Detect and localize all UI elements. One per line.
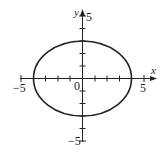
x-max-label: 5 <box>140 81 146 95</box>
origin-label: 0 <box>74 79 80 93</box>
y-axis <box>79 9 86 142</box>
y-max-label: 5 <box>86 10 92 24</box>
ellipse-graph: x y −5 5 5 −5 0 <box>0 0 164 154</box>
x-axis <box>20 75 157 82</box>
x-axis-label: x <box>150 64 156 76</box>
x-axis-arrow-icon <box>150 76 157 81</box>
y-min-label: −5 <box>68 134 81 148</box>
y-axis-label: y <box>73 6 79 18</box>
x-min-label: −5 <box>13 81 26 95</box>
y-axis-arrow-icon <box>80 9 85 16</box>
